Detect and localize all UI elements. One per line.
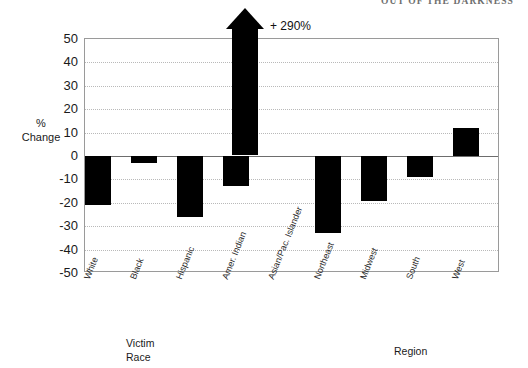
- bar-black: [131, 156, 157, 163]
- gridline: [85, 250, 498, 251]
- arrow-up-icon: [226, 8, 264, 29]
- group-label-region: Region: [394, 345, 427, 359]
- y-tick-label: 50: [4, 32, 78, 45]
- bar-west: [453, 128, 479, 156]
- gridline: [85, 203, 498, 204]
- x-tick-label-black: Black: [128, 265, 152, 286]
- bar-hispanic: [177, 156, 203, 217]
- y-tick-label: -30: [4, 219, 78, 232]
- bar-northeast: [315, 156, 341, 233]
- gridline: [85, 133, 498, 134]
- bar-amer-indian: [223, 156, 249, 186]
- chart-page: OUT OF THE DARKNESS % Change 50 40 30 20…: [0, 0, 528, 368]
- y-tick-label: 30: [4, 78, 78, 91]
- gridline: [85, 109, 498, 110]
- y-tick-label: 40: [4, 55, 78, 68]
- y-tick-label: -50: [4, 266, 78, 279]
- gridline: [85, 62, 498, 63]
- y-tick-label: -40: [4, 242, 78, 255]
- y-tick-label: -20: [4, 195, 78, 208]
- y-tick-label: 10: [4, 125, 78, 138]
- bar-asian-pac-islander-shaft: [232, 28, 258, 155]
- x-tick-label-white: White: [82, 264, 107, 285]
- gridline: [85, 86, 498, 87]
- y-axis-ticks: 50 40 30 20 10 0 -10 -20 -30 -40 -50: [0, 38, 78, 272]
- x-tick-label-south: South: [404, 264, 429, 285]
- running-header: OUT OF THE DARKNESS: [381, 0, 514, 6]
- gridline: [85, 179, 498, 180]
- bar-white: [85, 156, 111, 205]
- x-tick-label-west: West: [450, 266, 472, 286]
- arrow-annotation-label: + 290%: [270, 19, 311, 33]
- bar-south: [407, 156, 433, 177]
- y-tick-label: -10: [4, 172, 78, 185]
- y-tick-label: 0: [4, 149, 78, 162]
- y-tick-label: 20: [4, 102, 78, 115]
- bar-midwest: [361, 156, 387, 201]
- group-label-victim-race: Victim Race: [126, 337, 154, 364]
